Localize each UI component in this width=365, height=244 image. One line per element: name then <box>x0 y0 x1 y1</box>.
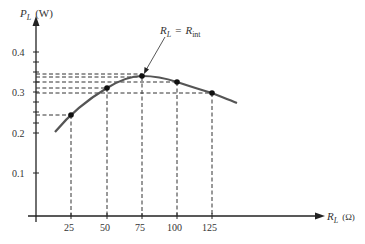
y-tick-label: 0.4 <box>12 47 25 58</box>
y-tick-label: 0.3 <box>12 87 25 98</box>
x-axis-title: RL(Ω) <box>326 210 355 225</box>
annotation-arrow-icon <box>144 67 149 74</box>
data-point <box>68 112 74 118</box>
data-point <box>209 90 215 96</box>
power-curve <box>55 76 237 132</box>
annotation-leader <box>146 37 165 70</box>
x-tick-label: 50 <box>100 222 110 233</box>
x-tick-label: 25 <box>64 222 74 233</box>
x-tick-label: 75 <box>135 222 145 233</box>
x-tick-label: 100 <box>167 222 182 233</box>
y-tick-label: 0.1 <box>12 168 25 179</box>
data-point <box>139 73 145 79</box>
y-tick-label: 0.2 <box>12 128 25 139</box>
x-tick-label: 125 <box>202 222 217 233</box>
data-point <box>174 79 180 85</box>
annotation-label: RL=Rint <box>159 24 201 39</box>
data-point <box>104 85 110 91</box>
chart: 0.4 0.3 0.2 0.1 25 50 75 100 125 RL=Rint <box>0 0 365 244</box>
x-axis-arrow-icon <box>315 213 325 220</box>
